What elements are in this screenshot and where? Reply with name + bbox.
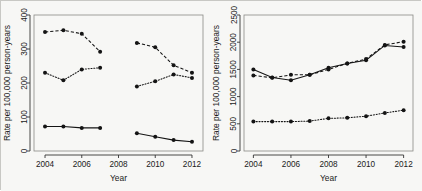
data-point-upper-dashed (43, 30, 47, 34)
series-line-upper-dashed (253, 42, 403, 78)
series-line-middle-dotted (45, 68, 100, 81)
chart-panel-right: 2004200620082010201205001000150020002500… (212, 1, 422, 191)
plot-area-border (34, 15, 203, 151)
chart-svg-right: 2004200620082010201205001000150020002500… (212, 1, 422, 191)
data-point-lower-solid (135, 131, 139, 135)
data-point-upper-solid (251, 67, 255, 71)
y-tick-label: 500 (230, 117, 239, 131)
series-line-upper-dashed (137, 43, 192, 73)
data-point-middle-dotted (135, 84, 139, 88)
data-point-lower-dotted (289, 120, 293, 124)
data-point-upper-dashed (308, 73, 312, 77)
data-point-lower-solid (190, 140, 194, 144)
data-point-lower-dotted (251, 120, 255, 124)
data-point-upper-dashed (98, 50, 102, 54)
x-tick-label: 2004 (244, 160, 263, 169)
data-point-middle-dotted (61, 78, 65, 82)
data-point-upper-dashed (327, 67, 331, 71)
data-point-lower-dotted (345, 116, 349, 120)
y-tick-label: 0 (20, 148, 29, 153)
data-point-lower-dotted (402, 108, 406, 112)
data-point-middle-dotted (190, 76, 194, 80)
x-tick-label: 2010 (357, 160, 376, 169)
data-point-upper-dashed (383, 43, 387, 47)
chart-panel-left: 200420062008201020120100200300400YearRat… (1, 1, 212, 191)
data-point-upper-dashed (270, 76, 274, 80)
x-tick-label: 2006 (73, 160, 92, 169)
y-axis-title: Rate per 100,000 person-years (2, 25, 12, 141)
data-point-upper-dashed (135, 41, 139, 45)
data-point-upper-dashed (251, 73, 255, 77)
data-point-lower-solid (98, 126, 102, 130)
y-tick-label: 400 (20, 8, 29, 22)
y-tick-label: 2000 (230, 33, 239, 52)
data-point-upper-dashed (402, 40, 406, 44)
x-tick-label: 2012 (395, 160, 414, 169)
x-tick-label: 2008 (109, 160, 128, 169)
x-tick-label: 2008 (319, 160, 338, 169)
data-point-lower-solid (61, 125, 65, 129)
data-point-upper-dashed (61, 28, 65, 32)
data-point-lower-solid (80, 126, 84, 130)
chart-svg-left: 200420062008201020120100200300400YearRat… (1, 1, 212, 191)
x-axis-title: Year (110, 173, 127, 183)
y-tick-label: 0 (230, 148, 239, 153)
data-point-lower-dotted (327, 116, 331, 120)
data-point-middle-dotted (98, 66, 102, 70)
series-line-upper-solid (253, 45, 403, 80)
data-point-upper-solid (289, 78, 293, 82)
x-tick-label: 2012 (183, 160, 202, 169)
x-axis-title: Year (320, 173, 337, 183)
data-point-middle-dotted (43, 71, 47, 75)
data-point-upper-dashed (364, 57, 368, 61)
series-line-lower-solid (45, 127, 100, 128)
data-point-upper-dashed (190, 71, 194, 75)
y-axis-title: Rate per 100,000 person-years (212, 25, 221, 141)
data-point-upper-dashed (153, 45, 157, 49)
x-tick-label: 2010 (146, 160, 165, 169)
x-tick-label: 2006 (282, 160, 301, 169)
data-point-lower-solid (153, 135, 157, 139)
data-point-upper-dashed (289, 73, 293, 77)
data-point-lower-dotted (270, 120, 274, 124)
data-point-lower-solid (43, 125, 47, 129)
series-line-lower-solid (137, 133, 192, 142)
y-tick-label: 200 (20, 76, 29, 90)
y-tick-label: 300 (20, 42, 29, 56)
data-point-middle-dotted (153, 79, 157, 83)
y-tick-label: 1000 (230, 87, 239, 106)
data-point-lower-dotted (383, 111, 387, 115)
data-point-lower-solid (172, 138, 176, 142)
y-tick-label: 100 (20, 110, 29, 124)
data-point-upper-dashed (80, 32, 84, 36)
y-tick-label: 2500 (230, 5, 239, 24)
data-point-upper-dashed (345, 61, 349, 65)
series-line-middle-dotted (137, 75, 192, 87)
y-tick-label: 1500 (230, 60, 239, 79)
data-point-middle-dotted (80, 67, 84, 71)
x-tick-label: 2004 (36, 160, 55, 169)
data-point-lower-dotted (308, 119, 312, 123)
data-point-middle-dotted (172, 73, 176, 77)
data-point-upper-solid (402, 45, 406, 49)
series-line-upper-dashed (45, 30, 100, 51)
data-point-upper-dashed (172, 63, 176, 67)
plot-area-border (244, 15, 413, 151)
data-point-lower-dotted (364, 114, 368, 118)
